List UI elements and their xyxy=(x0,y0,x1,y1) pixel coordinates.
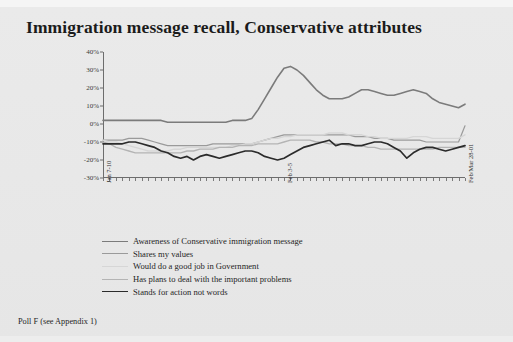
x-axis-label: Feb/Mar 28-01 xyxy=(468,144,475,183)
x-axis-tick xyxy=(284,178,285,181)
legend-item[interactable]: Shares my values xyxy=(102,248,303,261)
legend-item-label: Stands for action not words xyxy=(133,287,228,297)
legend-item[interactable]: Awareness of Conservative immigration me… xyxy=(102,235,303,248)
legend-item-label: Shares my values xyxy=(133,249,193,259)
legend-color-swatch xyxy=(102,253,128,254)
x-axis-tick xyxy=(148,178,149,181)
x-axis-tick xyxy=(206,178,207,181)
x-axis-tick xyxy=(394,178,395,181)
x-axis-tick xyxy=(446,178,447,181)
legend-color-swatch xyxy=(102,241,128,242)
x-axis-tick xyxy=(200,178,201,181)
x-axis-tick xyxy=(226,178,227,181)
x-axis-tick xyxy=(316,178,317,181)
x-axis-tick xyxy=(232,178,233,181)
x-axis-tick xyxy=(329,178,330,181)
x-axis-tick xyxy=(161,178,162,181)
x-axis-tick xyxy=(174,178,175,181)
x-axis-tick xyxy=(252,178,253,181)
y-axis-label: -20% xyxy=(84,157,99,164)
x-axis-tick xyxy=(336,178,337,181)
x-axis-tick xyxy=(213,178,214,181)
x-axis-tick xyxy=(355,178,356,181)
legend-color-swatch xyxy=(102,266,128,267)
x-axis-tick xyxy=(265,178,266,181)
x-axis-tick xyxy=(135,178,136,181)
x-axis-tick xyxy=(103,178,104,181)
x-axis-tick xyxy=(245,178,246,181)
page-title: Immigration message recall, Conservative… xyxy=(26,17,422,38)
x-axis-tick xyxy=(368,178,369,181)
legend-color-swatch xyxy=(102,279,128,280)
slide-top-edge xyxy=(0,0,513,7)
x-axis-tick xyxy=(413,178,414,181)
x-axis-tick xyxy=(187,178,188,181)
x-axis-tick xyxy=(381,178,382,181)
y-axis-label: 0% xyxy=(90,121,99,128)
x-axis-tick xyxy=(433,178,434,181)
x-axis-tick xyxy=(465,178,466,181)
x-axis-tick xyxy=(407,178,408,181)
legend-item-label: Would do a good job in Government xyxy=(133,261,259,271)
x-axis-tick xyxy=(420,178,421,181)
slide-bottom-edge xyxy=(0,336,513,342)
x-axis-tick xyxy=(459,178,460,181)
slide-background: Immigration message recall, Conservative… xyxy=(0,0,513,342)
x-axis-tick xyxy=(122,178,123,181)
x-axis-tick xyxy=(303,178,304,181)
x-axis-tick xyxy=(129,178,130,181)
x-axis-tick xyxy=(258,178,259,181)
x-axis-tick xyxy=(297,178,298,181)
x-axis-tick xyxy=(278,178,279,181)
y-axis-label: 40% xyxy=(86,49,99,56)
x-axis-tick xyxy=(400,178,401,181)
legend-color-swatch xyxy=(102,291,128,292)
y-axis-label: -10% xyxy=(84,139,99,146)
x-axis-tick xyxy=(349,178,350,181)
y-axis-label: 10% xyxy=(86,103,99,110)
footnote: Poll F (see Appendix 1) xyxy=(18,317,97,326)
x-axis-tick xyxy=(155,178,156,181)
x-axis-tick xyxy=(239,178,240,181)
chart-series-line xyxy=(103,66,465,122)
y-axis-label: 30% xyxy=(86,67,99,74)
x-axis-tick xyxy=(168,178,169,181)
x-axis-tick xyxy=(219,178,220,181)
x-axis-tick xyxy=(271,178,272,181)
x-axis-tick xyxy=(342,178,343,181)
x-axis-tick xyxy=(181,178,182,181)
x-axis-tick xyxy=(362,178,363,181)
x-axis-tick xyxy=(323,178,324,181)
chart-legend: Awareness of Conservative immigration me… xyxy=(102,235,303,298)
x-axis-tick xyxy=(452,178,453,181)
legend-item[interactable]: Has plans to deal with the important pro… xyxy=(102,273,303,286)
chart-plot-area: 40%30%20%10%0%-10%-20%-30% Jan 7-10Feb 3… xyxy=(103,52,465,178)
legend-item[interactable]: Stands for action not words xyxy=(102,285,303,298)
x-axis-tick xyxy=(116,178,117,181)
line-chart: 40%30%20%10%0%-10%-20%-30% Jan 7-10Feb 3… xyxy=(75,44,475,184)
chart-series-group xyxy=(103,52,465,178)
x-axis-tick xyxy=(387,178,388,181)
legend-item[interactable]: Would do a good job in Government xyxy=(102,260,303,273)
x-axis-tick xyxy=(194,178,195,181)
y-axis-label: -30% xyxy=(84,175,99,182)
y-axis-label: 20% xyxy=(86,85,99,92)
x-axis-tick xyxy=(426,178,427,181)
x-axis-tick xyxy=(142,178,143,181)
legend-item-label: Has plans to deal with the important pro… xyxy=(133,274,292,284)
x-axis-tick xyxy=(310,178,311,181)
legend-item-label: Awareness of Conservative immigration me… xyxy=(133,236,303,246)
x-axis-tick xyxy=(439,178,440,181)
x-axis-tick xyxy=(375,178,376,181)
